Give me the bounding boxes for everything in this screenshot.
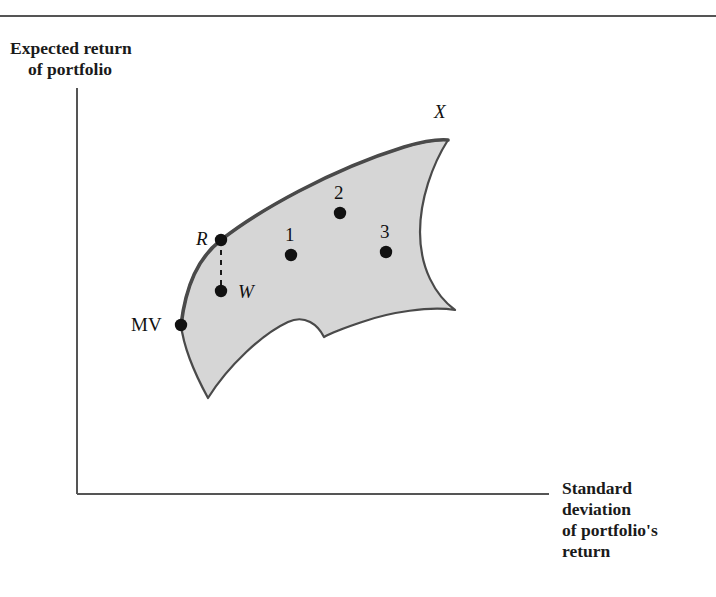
y-axis-label-line2: of portfolio bbox=[10, 59, 132, 80]
x-axis-label-line1: Standard bbox=[562, 478, 658, 499]
y-axis-label-line1: Expected return bbox=[10, 38, 132, 58]
feasible-set-region bbox=[181, 140, 455, 398]
data-point-3 bbox=[380, 246, 392, 258]
data-point-1 bbox=[285, 249, 297, 261]
data-point-mv bbox=[175, 319, 187, 331]
point-label-3: 3 bbox=[380, 221, 390, 243]
x-axis-label: Standarddeviationof portfolio'sreturn bbox=[562, 478, 658, 562]
x-axis-label-line4: return bbox=[562, 541, 658, 562]
point-label-r: R bbox=[196, 228, 208, 250]
data-point-2 bbox=[334, 207, 346, 219]
point-label-2: 2 bbox=[334, 182, 344, 204]
x-axis-label-line3: of portfolio's bbox=[562, 520, 658, 541]
point-label-w: W bbox=[238, 281, 254, 303]
efficient-frontier-figure: Expected returnof portfolio Standarddevi… bbox=[0, 0, 716, 597]
y-axis-label: Expected returnof portfolio bbox=[10, 38, 132, 80]
point-label-mv: MV bbox=[131, 314, 162, 336]
x-axis-label-line2: deviation bbox=[562, 499, 658, 520]
data-point-r bbox=[215, 234, 227, 246]
data-point-w bbox=[215, 285, 227, 297]
point-label-x: X bbox=[434, 101, 446, 123]
point-label-1: 1 bbox=[285, 224, 295, 246]
